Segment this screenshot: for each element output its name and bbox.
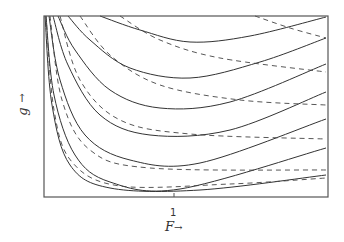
- plot: [0, 0, 344, 242]
- curve-dashed-5: [50, 16, 326, 170]
- curve-solid-4: [53, 16, 326, 136]
- curve-solid-2: [68, 16, 326, 78]
- curve-solid-3: [58, 16, 326, 109]
- x-tick-label: 1: [170, 207, 176, 218]
- curve-solid-5: [49, 16, 326, 166]
- y-arrow-icon: ↑: [14, 92, 30, 105]
- curve-dashed-2: [120, 16, 326, 72]
- curve-group: [45, 16, 326, 191]
- curve-dashed-3: [80, 16, 326, 105]
- x-axis-symbol: F: [165, 219, 174, 234]
- y-axis-symbol: g: [15, 107, 28, 115]
- x-axis-label: F→: [165, 219, 182, 234]
- y-axis-label: ↑g: [14, 92, 30, 118]
- x-arrow-icon: →: [174, 222, 182, 233]
